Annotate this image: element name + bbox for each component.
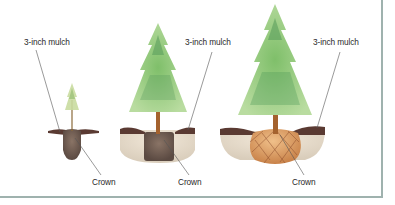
mulch-label-burlap: 3-inch mulch: [313, 37, 359, 47]
mulch-label-container: 3-inch mulch: [185, 37, 231, 47]
crown-label-seedling: Crown: [92, 177, 115, 187]
crown-label-burlap: Crown: [292, 177, 315, 187]
container-stage: [120, 23, 195, 163]
root-ball-icon: [144, 132, 174, 161]
seedling-stage: [48, 83, 99, 160]
mulch-right-icon: [175, 128, 195, 135]
mulch-left-icon: [220, 128, 258, 135]
burlap-stage: [220, 4, 325, 164]
mulch-left-icon: [120, 128, 145, 134]
crown-label-container: Crown: [178, 177, 201, 187]
tree-foliage-icon: [238, 4, 312, 115]
tree-foliage-icon: [129, 23, 187, 112]
mulch-label-seedling: 3-inch mulch: [24, 37, 70, 47]
root-ball-icon: [63, 129, 81, 160]
planting-illustration: [0, 0, 395, 205]
